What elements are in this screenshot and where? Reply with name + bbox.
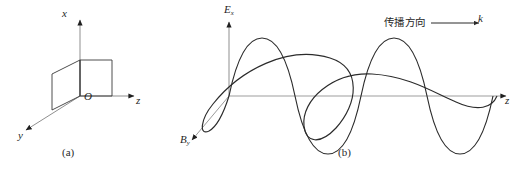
propagation-direction-text: 传播方向 (384, 16, 426, 28)
propagation-direction-annotation: 传播方向 (384, 14, 487, 29)
axis-label-e-b: Ex (224, 4, 234, 17)
axis-label-b-subscript: y (187, 139, 190, 146)
axis-label-e-subscript: x (231, 9, 234, 16)
axis-y-line-a (26, 96, 80, 130)
caption-panel-b: (b) (338, 146, 351, 158)
axis-b-line-b (192, 96, 229, 140)
axis-label-b-base: B (180, 133, 187, 145)
figure-container: x y z O (a) Ex By z 传播方向 k (b) (0, 0, 522, 174)
wavevector-label-k: k (478, 13, 483, 24)
axis-label-y-a: y (18, 130, 23, 141)
axis-label-z-b: z (505, 95, 509, 106)
axis-label-x-a: x (62, 8, 67, 19)
axis-label-z-a: z (136, 95, 140, 106)
wave-b-curve (202, 55, 497, 140)
caption-panel-a: (a) (62, 146, 74, 158)
parallelogram-xy-face (52, 60, 80, 110)
panel-b-group (192, 22, 506, 154)
axis-label-e-base: E (224, 3, 231, 15)
axis-label-b-b: By (180, 134, 190, 147)
panel-a-group (26, 20, 134, 130)
origin-label-a: O (84, 91, 92, 102)
